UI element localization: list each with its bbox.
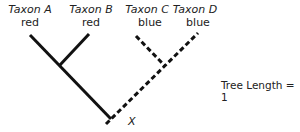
taxon-a-label: Taxon A (0, 3, 60, 16)
taxon-b-state: red (61, 16, 121, 29)
branch-root-to-taxon-a (30, 35, 111, 119)
root-label: X (128, 115, 136, 128)
taxon-d-state: blue (168, 16, 228, 29)
branch-node-to-taxon-b (60, 34, 89, 65)
taxon-d-label: Taxon D (165, 3, 225, 16)
taxon-a-state: red (0, 16, 60, 29)
tree-length-label: Tree Length = 1 (221, 79, 300, 103)
branch-node-to-taxon-c (136, 36, 165, 66)
phylogenetic-tree-diagram: Taxon A red Taxon B red Taxon C blue Tax… (0, 0, 300, 132)
branch-root-to-taxon-d (106, 33, 198, 124)
taxon-b-label: Taxon B (61, 3, 121, 16)
